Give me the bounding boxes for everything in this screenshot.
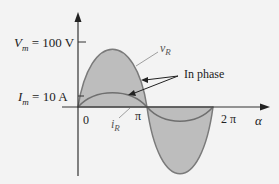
y-axis-arrow-icon xyxy=(75,12,82,22)
vr-leader xyxy=(136,52,158,66)
voltage-negative-lobe xyxy=(147,107,213,174)
im-label: Im = 10 A xyxy=(18,89,68,107)
zero-tick-label: 0 xyxy=(83,113,89,128)
two-pi-tick-label: 2 π xyxy=(221,112,236,127)
in-phase-arrow-1-icon xyxy=(141,77,148,83)
in-phase-label: In phase xyxy=(184,67,224,82)
alpha-axis-label: α xyxy=(255,113,262,129)
ir-leader xyxy=(119,108,130,118)
pi-tick-label: π xyxy=(135,109,141,124)
vr-label: vR xyxy=(160,41,171,57)
resistor-phase-diagram: Vm = 100 V Im = 10 A 0 π 2 π α vR iR In … xyxy=(0,0,279,184)
ir-label: iR xyxy=(111,117,120,133)
x-axis-arrow-icon xyxy=(260,104,270,111)
vm-label: Vm = 100 V xyxy=(14,35,74,53)
